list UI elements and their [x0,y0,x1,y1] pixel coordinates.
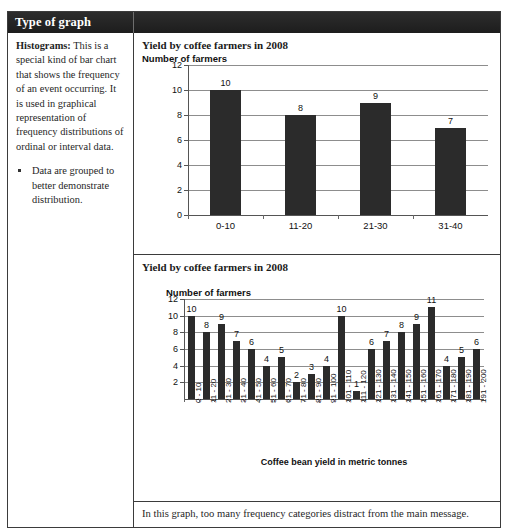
chart-1-title: Yield by coffee farmers in 2008 [142,39,494,51]
x-axis-tick-mark [263,215,264,219]
x-axis-tick-mark [184,399,185,402]
bar-value-label: 4 [253,355,281,364]
x-axis-tick-mark [229,399,230,402]
bar-value-label: 9 [362,92,390,101]
y-axis-tick-label: 12 [162,61,182,70]
description-cell: Histograms: This is a special kind of ba… [8,33,134,527]
bar-value-label: 8 [193,321,221,330]
y-axis-tick-label: 4 [162,161,182,170]
x-axis-tick-mark [413,215,414,219]
y-axis-tick-label: 4 [158,362,178,371]
x-axis-tick-mark [259,399,260,402]
x-axis-tick-mark [469,399,470,402]
bar-value-label: 7 [437,117,465,126]
bullet-dot-icon [18,169,21,172]
bar-value-label: 4 [313,355,341,364]
x-axis-tick-mark [304,399,305,402]
y-axis-tick-label: 2 [158,378,178,387]
bar [435,128,467,216]
x-axis-tick-mark [409,399,410,402]
chart-2-plot-area: 24681012100 - 10811 - 20921 - 30731 - 40… [184,299,484,399]
y-axis-line [184,299,185,399]
x-axis-tick-mark [394,399,395,402]
bar-value-label: 8 [388,321,416,330]
bar-value-label: 9 [403,313,431,322]
table-header-cell-type: Type of graph [8,12,134,33]
examples-cell: Yield by coffee farmers in 2008 Number o… [134,33,500,527]
y-axis-tick-label: 8 [158,328,178,337]
bar-value-label: 4 [433,355,461,364]
histogram-description: Histograms: This is a special kind of ba… [16,39,125,154]
footer-caption: In this graph, too many frequency catego… [134,501,500,527]
table-header-label-type: Type of graph [15,15,91,30]
x-axis-tick-mark [334,399,335,402]
bar-value-label: 6 [238,338,266,347]
graph-type-table: Type of graph Histograms: This is a spec… [7,11,501,528]
bar-value-label: 10 [212,79,240,88]
table-header-row: Type of graph [8,12,500,33]
y-axis-tick-label: 6 [162,136,182,145]
gridline [184,349,484,350]
y-axis-tick-label: 6 [158,345,178,354]
y-axis-tick-label: 8 [162,111,182,120]
chart-2-title: Yield by coffee farmers in 2008 [142,261,494,273]
bar [285,115,317,215]
x-axis-title: Coffee bean yield in metric tonnes [184,457,484,467]
chart-2-block: Yield by coffee farmers in 2008 Number o… [134,254,500,501]
bar [210,90,242,215]
x-axis-tick-mark [349,399,350,402]
x-axis-tick-mark [424,399,425,402]
x-axis-tick-mark [319,399,320,402]
x-axis-tick-mark [244,399,245,402]
top-cropped-text [14,0,274,8]
x-axis-tick-mark [439,399,440,402]
y-axis-tick-label: 2 [162,186,182,195]
y-axis-tick-label: 10 [162,86,182,95]
y-axis-tick-label: 12 [158,295,178,304]
chart-1-block: Yield by coffee farmers in 2008 Number o… [134,33,500,254]
x-axis-category-label: 31-40 [413,221,488,231]
x-axis-category-label: 21-30 [338,221,413,231]
table-header-cell-example [134,12,500,33]
x-axis-tick-mark [199,399,200,402]
bar-value-label: 7 [373,330,401,339]
chart-1-ylabel: Number of farmers [142,53,494,64]
x-axis-category-label: 191 - 200 [480,369,488,403]
gridline [188,65,488,66]
bar-value-label: 10 [328,305,356,314]
table-body-row: Histograms: This is a special kind of ba… [8,33,500,527]
bar [360,103,392,216]
x-axis-category-label: 11-20 [263,221,338,231]
x-axis-tick-mark [454,399,455,402]
bar-value-label: 8 [287,104,315,113]
x-axis-tick-mark [289,399,290,402]
histogram-description-text: This is a special kind of bar chart that… [16,40,123,152]
list-item: Data are grouped to better demonstrate d… [16,164,125,207]
x-axis-tick-mark [338,215,339,219]
bar-value-label: 5 [268,346,296,355]
x-axis-tick-mark [379,399,380,402]
y-axis-tick-label: 10 [158,312,178,321]
chart-1-plot-area: 024681012100-10811-20921-30731-40 [188,65,488,215]
bar-value-label: 6 [463,338,491,347]
bar-value-label: 3 [298,363,326,372]
histogram-bullet-list: Data are grouped to better demonstrate d… [16,164,125,207]
x-axis-category-label: 0-10 [188,221,263,231]
x-axis-tick-mark [364,399,365,402]
histogram-term: Histograms: [16,40,71,51]
bar-value-label: 10 [178,305,206,314]
x-axis-tick-mark [214,399,215,402]
bar-value-label: 5 [448,346,476,355]
bar-value-label: 6 [358,338,386,347]
x-axis-tick-mark [274,399,275,402]
y-axis-line [188,65,189,215]
y-axis-tick-label: 0 [162,211,182,220]
bullet-text: Data are grouped to better demonstrate d… [32,165,114,205]
x-axis-tick-mark [188,215,189,219]
bar-value-label: 11 [418,296,446,305]
chart-2-ylabel-text: Number of farmers [166,287,251,298]
gridline [184,366,484,367]
bar-value-label: 9 [208,313,236,322]
